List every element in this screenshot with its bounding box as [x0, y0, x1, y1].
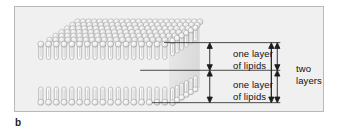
label-one-layer-of-lipids-lower: one layerof lipids — [233, 79, 273, 102]
label-upper-line1: one layer — [233, 48, 273, 59]
label-lower-line2: of lipids — [233, 91, 266, 102]
label-bilayer-line2: layers — [296, 75, 322, 86]
label-upper-line2: of lipids — [233, 60, 266, 71]
label-lower-line1: one layer — [233, 79, 273, 90]
panel-letter-b: b — [15, 117, 21, 129]
lipid-bilayer-illustration — [15, 7, 323, 111]
label-one-layer-of-lipids-upper: one layerof lipids — [233, 48, 273, 71]
figure-panel: one layerof lipids one layerof lipids tw… — [14, 6, 324, 112]
upper-leaflet-lipids — [38, 41, 168, 59]
label-bilayer-line1: two — [296, 63, 311, 74]
label-two-layers: twolayers — [296, 63, 322, 86]
lower-leaflet-lipids — [38, 87, 168, 105]
figure-root: one layerof lipids one layerof lipids tw… — [0, 0, 341, 135]
